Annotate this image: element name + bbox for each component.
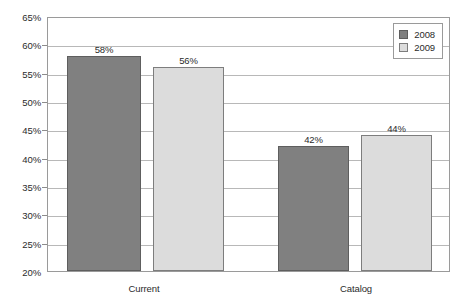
y-axis-tick-label: 25% bbox=[0, 238, 41, 249]
legend-swatch-icon-2009 bbox=[399, 43, 408, 52]
legend-label-2008: 2008 bbox=[414, 29, 435, 40]
y-axis-tick-label: 35% bbox=[0, 182, 41, 193]
x-axis-category-label: Current bbox=[84, 283, 204, 294]
chart-legend: 2008 2009 bbox=[393, 23, 443, 59]
y-axis-tick-label: 55% bbox=[0, 68, 41, 79]
bar-value-label: 42% bbox=[278, 134, 349, 145]
legend-label-2009: 2009 bbox=[414, 42, 435, 53]
bar bbox=[361, 135, 432, 271]
bar-value-label: 44% bbox=[361, 123, 432, 134]
legend-item-2008: 2008 bbox=[399, 28, 435, 41]
plot-area: 58%56%42%44% 2008 2009 bbox=[47, 17, 450, 272]
y-axis-tick-label: 45% bbox=[0, 125, 41, 136]
bar bbox=[153, 67, 224, 271]
bar-value-label: 58% bbox=[67, 44, 141, 55]
legend-item-2009: 2009 bbox=[399, 41, 435, 54]
y-axis-tick-label: 40% bbox=[0, 153, 41, 164]
y-axis-tick-label: 65% bbox=[0, 12, 41, 23]
y-axis-tick-label: 30% bbox=[0, 210, 41, 221]
y-axis-tick-label: 60% bbox=[0, 40, 41, 51]
bar-chart: 65%60%55%50%45%40%35%30%25%20% 58%56%42%… bbox=[0, 0, 467, 307]
y-axis-tick-label: 20% bbox=[0, 267, 41, 278]
bar bbox=[278, 146, 349, 271]
y-axis-tick-label: 50% bbox=[0, 97, 41, 108]
x-axis-category-label: Catalog bbox=[296, 283, 416, 294]
bar bbox=[67, 56, 141, 271]
bar-value-label: 56% bbox=[153, 55, 224, 66]
legend-swatch-icon-2008 bbox=[399, 30, 408, 39]
